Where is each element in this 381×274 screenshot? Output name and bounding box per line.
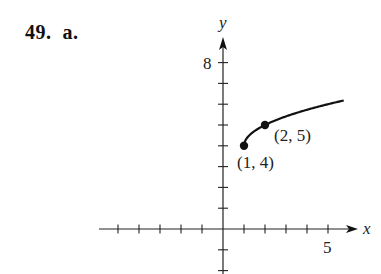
- point-marker: [240, 142, 248, 150]
- x-axis-label: x: [362, 219, 371, 238]
- point-label: (2, 5): [274, 126, 311, 145]
- function-graph: (1, 4)(2, 5) x y 58: [0, 0, 381, 274]
- x-tick-label: 5: [323, 238, 332, 257]
- y-axis-label: y: [217, 13, 227, 32]
- axes: [99, 37, 358, 274]
- plotted-points: (1, 4)(2, 5): [237, 121, 311, 172]
- point-marker: [261, 121, 269, 129]
- point-label: (1, 4): [237, 153, 274, 172]
- y-tick-label: 8: [203, 54, 212, 73]
